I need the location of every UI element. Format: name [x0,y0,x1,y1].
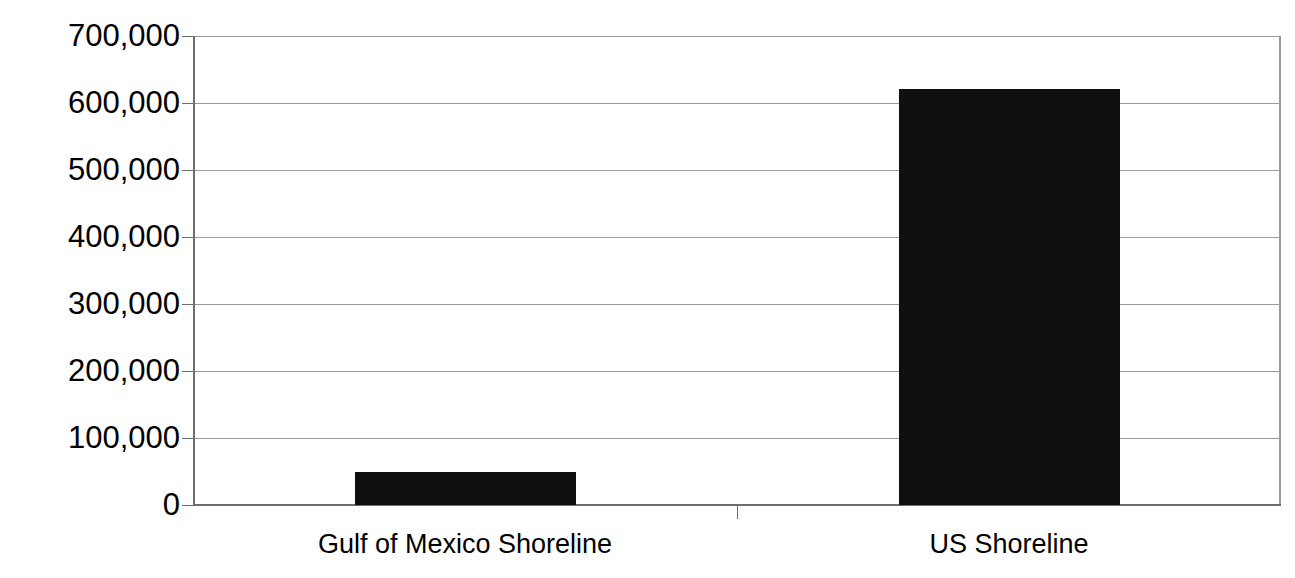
x-axis-category-label: Gulf of Mexico Shoreline [193,529,737,559]
y-axis-tick-label: 200,000 [0,355,180,386]
y-axis-tick-label: 300,000 [0,288,180,319]
bar [899,89,1120,505]
y-axis-tick-label: 400,000 [0,221,180,252]
y-axis-tick-mark [182,304,193,305]
plot-area [193,36,1281,505]
plot-right-border [1279,36,1281,505]
y-axis-tick-mark [182,438,193,439]
x-axis-tick-mark [737,505,738,519]
y-axis-tick-label: 600,000 [0,87,180,118]
y-axis-tick-label: 0 [0,489,180,520]
y-axis-tick-label: 700,000 [0,20,180,51]
y-axis-tick-mark [182,505,193,506]
bar [355,472,576,505]
y-axis-tick-mark [182,170,193,171]
y-axis-tick-mark [182,36,193,37]
y-axis-tick-label: 500,000 [0,154,180,185]
gridline [193,36,1281,37]
x-axis-category-label: US Shoreline [737,529,1281,559]
y-axis-line [193,36,195,505]
bar-chart: Square Miles 0100,000200,000300,000400,0… [0,0,1295,578]
y-axis-tick-label: 100,000 [0,422,180,453]
y-axis-tick-mark [182,371,193,372]
y-axis-tick-mark [182,237,193,238]
y-axis-tick-mark [182,103,193,104]
